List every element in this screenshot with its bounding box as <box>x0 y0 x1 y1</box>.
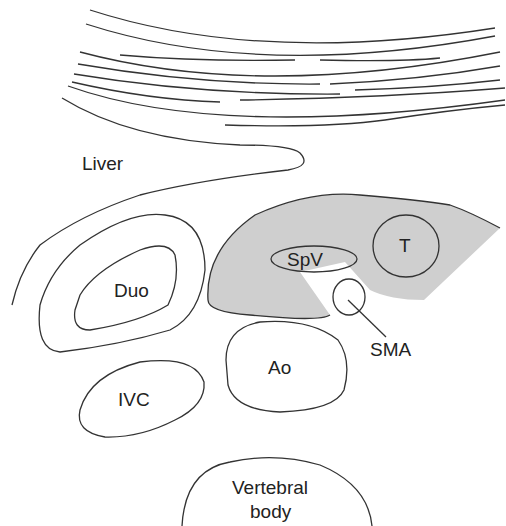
vertebral-label-line1: Vertebral <box>232 477 308 498</box>
duodenum-label: Duo <box>114 280 149 301</box>
aorta-label: Ao <box>268 357 291 378</box>
splenic-vein-label: SpV <box>287 249 323 270</box>
pancreas-shaded <box>208 194 500 318</box>
abdominal-wall-layers <box>68 10 505 126</box>
liver-label: Liver <box>82 153 124 174</box>
sma-vessel <box>333 279 365 315</box>
tumour-label: T <box>399 235 411 256</box>
sma-label: SMA <box>370 339 412 360</box>
vertebral-label-line2: body <box>250 501 292 522</box>
ivc-label: IVC <box>118 389 150 410</box>
anatomy-diagram: Liver Duo SpV T SMA Ao IVC Vertebral bod… <box>0 0 506 526</box>
sma-leader-line <box>348 300 386 337</box>
